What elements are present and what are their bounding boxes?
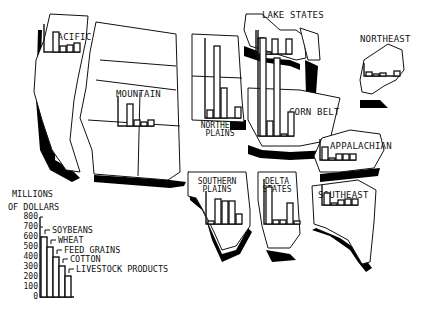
y-tick-label: 600 [20,233,38,241]
y-tick-label: 700 [20,223,38,231]
legend-item-livestock-products: LIVESTOCK PRODUCTS [76,265,168,273]
y-tick-label: 0 [20,293,38,301]
y-tick-label: 100 [20,283,38,291]
y-tick-label: 800 [20,213,38,221]
legend-item-wheat: WHEAT [58,236,84,244]
us-regions-export-map: PACIFIC MOUNTAIN NORTHERNPLAINS LAKE STA… [0,0,438,314]
y-tick-label: 400 [20,253,38,261]
legend-item-feed-grains: FEED GRAINS [64,246,120,254]
legend-item-soybeans: SOYBEANS [52,226,93,234]
y-tick-label: 500 [20,243,38,251]
y-tick-label: 300 [20,263,38,271]
legend-item-cotton: COTTON [70,255,101,263]
y-tick-label: 200 [20,273,38,281]
